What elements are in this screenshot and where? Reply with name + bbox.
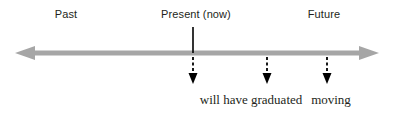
- timeline-diagram: Past Present (now) Future will have grad…: [0, 0, 395, 115]
- arrow-down-icon-moving: [323, 73, 332, 84]
- arrow-down-icon-present-event: [189, 73, 198, 84]
- arrow-left-icon: [15, 46, 35, 60]
- label-past: Past: [55, 8, 77, 20]
- label-present-now: Present (now): [161, 8, 231, 20]
- arrow-right-icon: [359, 46, 379, 60]
- label-will-have-graduated: will have graduated: [200, 92, 303, 108]
- arrow-down-icon-graduated: [263, 73, 272, 84]
- label-moving: moving: [311, 92, 351, 108]
- label-future: Future: [308, 8, 340, 20]
